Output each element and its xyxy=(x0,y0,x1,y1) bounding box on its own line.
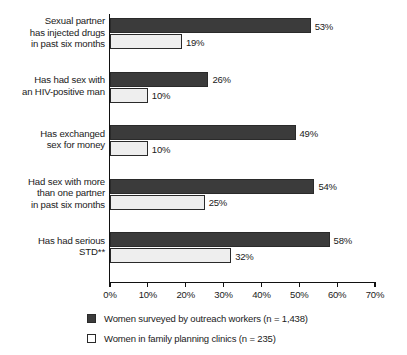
bar-value-label: 49% xyxy=(300,128,318,139)
x-tick-label-30: 30% xyxy=(214,289,232,300)
x-tick-label-10: 10% xyxy=(139,289,157,300)
horizontal-bar-chart: 0%10%20%30%40%50%60%70% Sexual partner h… xyxy=(0,0,407,355)
bar-outreach xyxy=(110,18,311,33)
x-tick-label-60: 60% xyxy=(328,289,346,300)
x-tick-label-0: 0% xyxy=(103,289,116,300)
legend-item-outreach: Women surveyed by outreach workers (n = … xyxy=(87,313,308,324)
x-tick-0 xyxy=(109,282,110,287)
legend-swatch-light-icon xyxy=(87,334,96,343)
x-axis-line xyxy=(110,282,375,283)
bar-clinics xyxy=(110,195,205,210)
bar-outreach xyxy=(110,125,296,140)
bar-value-label: 58% xyxy=(334,235,352,246)
bar-clinics xyxy=(110,88,148,103)
x-tick-label-50: 50% xyxy=(290,289,308,300)
x-tick-50 xyxy=(299,282,300,287)
legend-item-clinics: Women in family planning clinics (n = 23… xyxy=(87,333,276,344)
legend-swatch-dark-icon xyxy=(87,314,96,323)
x-tick-30 xyxy=(223,282,224,287)
category-label: Has exchanged sex for money xyxy=(0,128,105,151)
category-label: Has had sex with an HIV-positive man xyxy=(0,74,105,97)
bar-value-label: 26% xyxy=(212,74,230,85)
x-tick-60 xyxy=(337,282,338,287)
category-label: Has had serious STD** xyxy=(0,235,105,258)
bar-value-label: 10% xyxy=(152,144,170,155)
bar-outreach xyxy=(110,179,314,194)
bar-value-label: 10% xyxy=(152,90,170,101)
category-label: Sexual partner has injected drugs in pas… xyxy=(0,15,105,50)
bar-clinics xyxy=(110,141,148,156)
x-tick-70 xyxy=(374,282,375,287)
bar-outreach xyxy=(110,72,208,87)
category-label: Had sex with more than one partner in pa… xyxy=(0,176,105,211)
x-tick-label-70: 70% xyxy=(366,289,384,300)
bar-value-label: 32% xyxy=(235,251,253,262)
x-tick-label-20: 20% xyxy=(176,289,194,300)
bar-value-label: 53% xyxy=(315,21,333,32)
legend-label-outreach: Women surveyed by outreach workers (n = … xyxy=(104,313,308,324)
x-tick-20 xyxy=(185,282,186,287)
x-tick-10 xyxy=(147,282,148,287)
bar-value-label: 54% xyxy=(318,181,336,192)
bar-clinics xyxy=(110,248,231,263)
bar-value-label: 25% xyxy=(209,197,227,208)
x-tick-label-40: 40% xyxy=(252,289,270,300)
bar-outreach xyxy=(110,232,330,247)
bar-clinics xyxy=(110,34,182,49)
legend-label-clinics: Women in family planning clinics (n = 23… xyxy=(104,333,276,344)
bar-value-label: 19% xyxy=(186,37,204,48)
x-tick-40 xyxy=(261,282,262,287)
